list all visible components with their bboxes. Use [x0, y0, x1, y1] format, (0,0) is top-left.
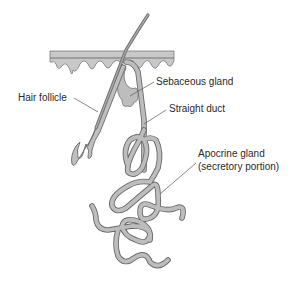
leader-straight-duct — [144, 110, 166, 124]
label-sebaceous-gland: Sebaceous gland — [156, 76, 233, 88]
skin-surface — [50, 51, 174, 74]
apocrine-secretory-coil — [92, 130, 183, 266]
leader-apocrine — [160, 163, 196, 194]
label-secretory-portion: (secretory portion) — [198, 161, 279, 173]
label-hair-follicle: Hair follicle — [18, 92, 67, 104]
label-straight-duct: Straight duct — [169, 103, 225, 115]
leader-hair-follicle — [74, 98, 98, 112]
gland-diagram — [0, 0, 298, 290]
hair-follicle — [72, 64, 127, 165]
label-apocrine-gland: Apocrine gland — [198, 148, 265, 160]
